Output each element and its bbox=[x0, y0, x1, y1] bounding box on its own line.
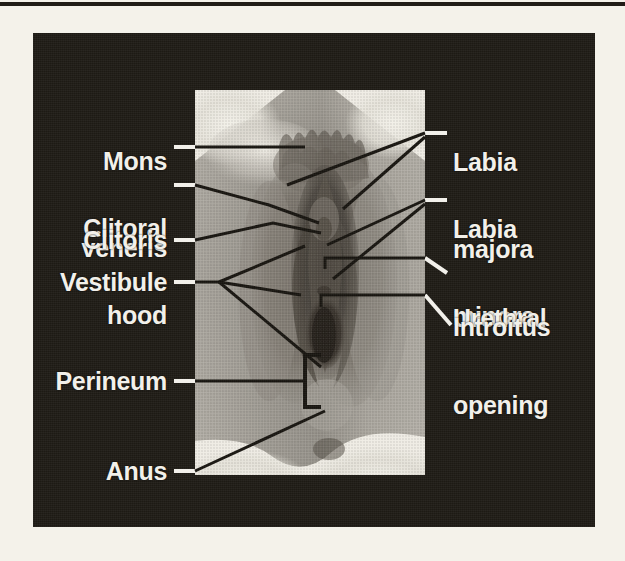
page-canvas: Mons veneris Clitoral hood Clitoris Vest… bbox=[0, 0, 625, 561]
label-vestibule: Vestibule bbox=[60, 268, 167, 297]
label-anus: Anus bbox=[106, 457, 167, 486]
label-clitoral-hood-line2: hood bbox=[83, 301, 167, 330]
page-top-rule bbox=[0, 2, 625, 6]
label-clitoris: Clitoris bbox=[83, 226, 167, 255]
label-introitus: Introitus bbox=[453, 313, 550, 342]
label-urethral-opening: Urethral opening bbox=[453, 246, 548, 478]
label-urethral-opening-line2: opening bbox=[453, 391, 548, 420]
figure-panel: Mons veneris Clitoral hood Clitoris Vest… bbox=[33, 33, 595, 527]
label-perineum: Perineum bbox=[55, 367, 167, 396]
label-labia-minora-line1: Labia bbox=[453, 215, 535, 244]
